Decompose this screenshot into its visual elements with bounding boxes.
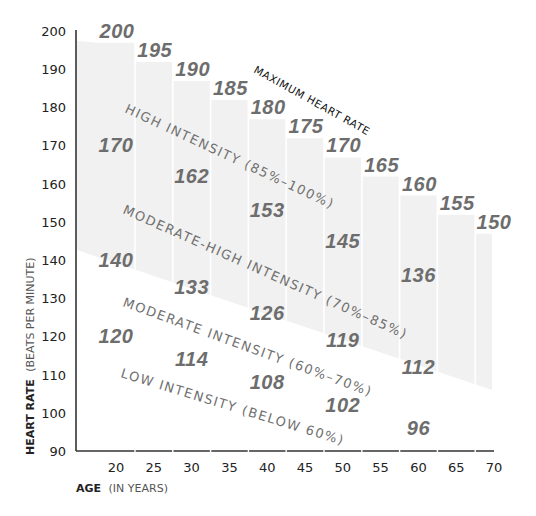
y-tick-label: 160: [41, 177, 66, 192]
data-value-label: 108: [250, 371, 285, 393]
x-axis-title-light: (IN YEARS): [109, 482, 168, 495]
data-value-label: 165: [364, 154, 399, 176]
y-tick-label: 100: [41, 406, 66, 421]
y-tick-label: 90: [49, 444, 66, 459]
data-value-label: 153: [250, 199, 285, 221]
data-value-label: 170: [326, 134, 361, 156]
data-value-label: 200: [99, 20, 135, 42]
x-tick-label: 55: [372, 460, 389, 475]
y-tick-label: 120: [41, 329, 66, 344]
data-value-label: 102: [325, 394, 360, 416]
data-value-label: 190: [175, 58, 210, 80]
x-tick-label: 45: [297, 460, 314, 475]
x-tick-label: 40: [259, 460, 276, 475]
data-value-label: 155: [440, 192, 475, 214]
x-tick-label: 60: [410, 460, 427, 475]
data-value-label: 195: [137, 39, 172, 61]
data-value-label: 170: [99, 134, 134, 156]
y-axis-ticks: 20019018017016015014013012011010090: [41, 24, 66, 459]
y-axis-title-bold: HEART RATE: [24, 379, 37, 455]
y-tick-label: 170: [41, 138, 66, 153]
y-tick-label: 150: [41, 215, 66, 230]
y-tick-label: 180: [41, 100, 66, 115]
data-value-label: 140: [99, 249, 134, 271]
data-value-label: 112: [402, 356, 435, 378]
data-value-label: 162: [174, 165, 209, 187]
y-tick-label: 130: [41, 291, 66, 306]
y-axis-title-light: (BEATS PER MINUTE): [24, 257, 37, 371]
data-value-label: 96: [407, 417, 431, 439]
data-value-label: 185: [213, 77, 248, 99]
data-value-label: 114: [175, 348, 208, 370]
data-value-label: 133: [174, 276, 209, 298]
x-tick-label: 30: [183, 460, 200, 475]
y-tick-label: 140: [41, 253, 66, 268]
y-tick-label: 110: [41, 368, 66, 383]
x-axis-title-bold: AGE: [76, 482, 101, 495]
data-value-label: 175: [289, 115, 324, 137]
y-tick-label: 190: [41, 62, 66, 77]
data-value-label: 119: [326, 329, 360, 351]
x-tick-label: 25: [146, 460, 163, 475]
data-value-label: 180: [251, 96, 286, 118]
x-tick-label: 50: [335, 460, 352, 475]
x-axis-title: AGE (IN YEARS): [76, 482, 168, 495]
data-value-label: 120: [99, 325, 134, 347]
data-value-label: 160: [402, 173, 437, 195]
data-value-label: 145: [325, 230, 360, 252]
x-axis-ticks: 2025303540455055606570: [108, 460, 503, 475]
data-value-label: 126: [250, 302, 285, 324]
x-tick-label: 35: [221, 460, 238, 475]
heart-rate-chart: 20019018017016015014013012011010090 2025…: [0, 0, 536, 516]
y-axis-title: HEART RATE (BEATS PER MINUTE): [24, 257, 37, 455]
x-tick-label: 70: [486, 460, 503, 475]
data-value-label: 150: [477, 211, 512, 233]
y-tick-label: 200: [41, 24, 66, 39]
x-tick-label: 65: [448, 460, 465, 475]
x-tick-label: 20: [108, 460, 125, 475]
data-value-label: 136: [401, 264, 436, 286]
